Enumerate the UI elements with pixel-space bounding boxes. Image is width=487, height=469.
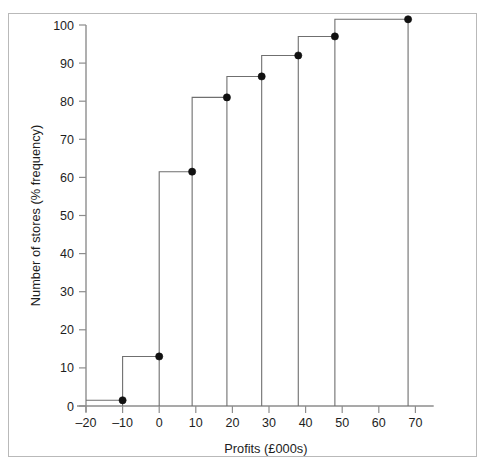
x-axis-tick-label: 60 [372, 416, 386, 430]
data-point-marker [295, 52, 302, 59]
x-axis-tick-label: 50 [335, 416, 349, 430]
x-axis-tick-label: 10 [189, 416, 203, 430]
y-axis-tick-label: 10 [60, 361, 74, 375]
y-axis-tick-label: 0 [67, 400, 74, 414]
x-axis-tick-label: –20 [76, 416, 97, 430]
data-point-marker [119, 397, 126, 404]
y-axis-tick-label: 90 [60, 57, 74, 71]
x-axis-tick-label: 30 [262, 416, 276, 430]
y-axis-tick-label: 30 [60, 285, 74, 299]
x-axis-tick-label: 70 [408, 416, 422, 430]
y-axis-tick-label: 50 [60, 209, 74, 223]
y-axis-tick-label: 100 [53, 19, 74, 33]
x-axis-tick-label: 20 [225, 416, 239, 430]
x-axis-tick-label: 0 [156, 416, 163, 430]
y-axis-tick-label: 70 [60, 133, 74, 147]
data-point-marker [258, 73, 265, 80]
chart-figure: –20–100102030405060700102030405060708090… [0, 0, 487, 469]
y-axis-tick-label: 80 [60, 95, 74, 109]
data-point-marker [223, 94, 230, 101]
data-point-marker [156, 353, 163, 360]
y-axis-tick-label: 20 [60, 323, 74, 337]
x-axis-title: Profits (£000s) [224, 441, 307, 456]
y-axis-tick-label: 60 [60, 171, 74, 185]
data-point-marker [331, 33, 338, 40]
x-axis-tick-label: –10 [112, 416, 133, 430]
data-point-marker [404, 16, 411, 23]
data-point-marker [189, 168, 196, 175]
y-axis-title: Number of stores (% frequency) [28, 125, 43, 306]
cumulative-step-line [86, 19, 408, 400]
y-axis-tick-label: 40 [60, 247, 74, 261]
step-chart-plot: –20–100102030405060700102030405060708090… [0, 0, 487, 469]
x-axis-tick-label: 40 [299, 416, 313, 430]
